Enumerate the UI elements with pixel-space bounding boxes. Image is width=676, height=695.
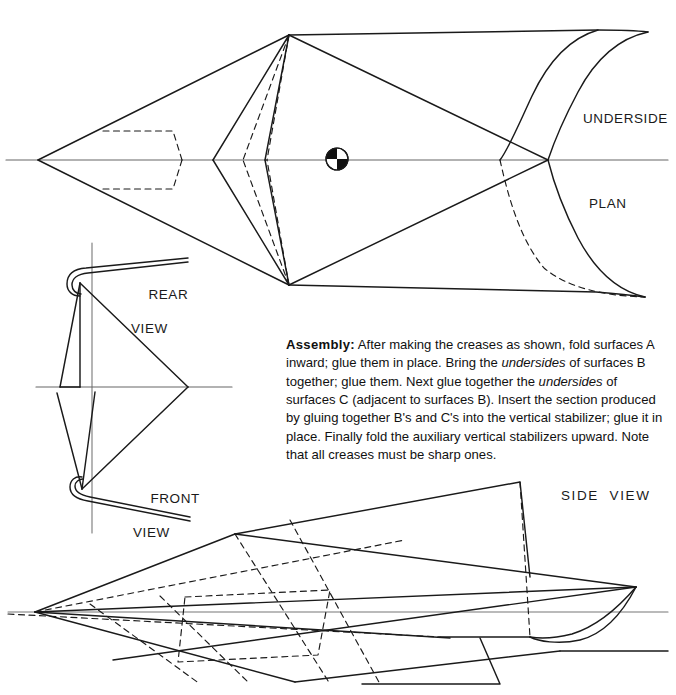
label-front-view-line2: VIEW [133,525,200,542]
plan-crease-nose-upper [103,131,182,160]
plan-view-group [6,30,668,297]
label-underside: UNDERSIDE [583,111,668,128]
plan-upper-spar [289,35,548,160]
side-crease-3 [160,596,250,684]
side-crease-4 [235,534,330,684]
assembly-heading: Assembly: [286,337,355,352]
label-rear-view: REAR VIEW [131,270,188,371]
plan-lower-spar [289,160,548,285]
rf-upper-spar-left [60,283,80,387]
assembly-emphasis-1: undersides [501,355,565,370]
plan-upper-inner-curve [500,30,598,160]
drawing-page: UNDERSIDE PLAN REAR VIEW FRONT VIEW SIDE… [0,0,676,695]
rf-lower-vertical-web [82,392,95,489]
center-of-gravity-icon [326,148,348,170]
side-lower-edge-rear [295,651,560,682]
label-plan: PLAN [589,196,627,213]
plan-lower-trailing-curve [548,160,645,297]
side-crease-5 [290,520,380,684]
assembly-instructions: Assembly: After making the creases as sh… [286,336,668,464]
assembly-emphasis-2: undersides [539,374,603,389]
side-upper-deck-rear [235,534,636,587]
side-crease-7 [8,614,440,637]
label-front-view-line1: FRONT [150,491,200,506]
side-view-group [8,482,668,684]
rf-lower-spar-left [57,393,82,489]
label-rear-view-line2: VIEW [131,321,188,338]
label-front-view: FRONT VIEW [133,474,200,575]
side-tail-fin [235,482,530,577]
label-side-view: SIDE VIEW [561,488,651,505]
side-tail-curve-outer [530,587,636,642]
side-crease-1 [35,540,405,612]
label-rear-view-line1: REAR [148,287,188,302]
plan-crease-nose-lower [103,160,182,189]
